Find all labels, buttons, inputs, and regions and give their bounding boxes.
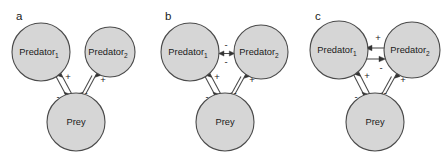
- panel-b-letter: b: [165, 10, 171, 22]
- panel-b: b + - + -: [149, 0, 298, 158]
- sign-predator1-gain: +: [65, 71, 71, 82]
- panel-a-letter: a: [16, 10, 23, 22]
- node-prey-label: Prey: [365, 117, 384, 127]
- node-predator1-label: Predator1: [168, 47, 208, 58]
- node-predator2-label: Predator2: [88, 47, 128, 58]
- node-predator1-label: Predator1: [19, 47, 59, 58]
- node-prey-label: Prey: [66, 117, 85, 127]
- sign-predator1-gain: +: [214, 71, 220, 82]
- sign-intraguild-loss: -: [379, 62, 382, 73]
- sign-predator1-gain: +: [364, 70, 370, 81]
- node-predator2-label: Predator2: [390, 45, 430, 56]
- predator-prey-interaction-diagram: a + - + - Pr: [0, 0, 448, 158]
- panel-c-letter: c: [315, 10, 321, 22]
- node-predator2-label: Predator2: [239, 47, 279, 58]
- node-prey-label: Prey: [215, 117, 234, 127]
- panel-c: c + - + - +: [299, 0, 448, 158]
- sign-intraguild-gain: +: [375, 32, 381, 43]
- node-predator1-label: Predator1: [317, 45, 357, 56]
- sign-competition-below: -: [224, 56, 227, 67]
- sign-competition-above: -: [224, 39, 227, 50]
- panel-a: a + - + - Pr: [0, 0, 149, 158]
